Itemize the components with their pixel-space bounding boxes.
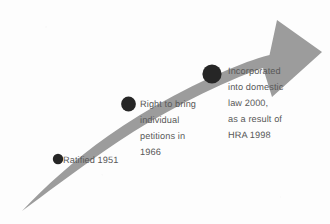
milestone-marker-petitions[interactable] xyxy=(121,97,136,112)
milestone-label-ratified: Ratified 1951 xyxy=(63,152,118,168)
diagram-canvas: Ratified 1951 Right to bring individual … xyxy=(0,0,330,224)
milestone-label-petitions: Right to bring individual petitions in 1… xyxy=(140,96,196,160)
milestone-marker-ratified[interactable] xyxy=(53,154,63,164)
milestone-label-incorporated: Incorporated into domestic law 2000, as … xyxy=(228,63,283,143)
milestone-marker-incorporated[interactable] xyxy=(202,64,221,83)
